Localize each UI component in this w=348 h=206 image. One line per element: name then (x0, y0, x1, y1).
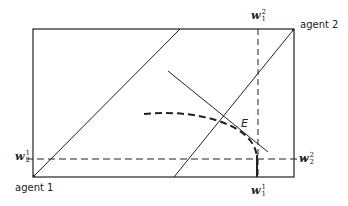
edgeworth-box (33, 29, 294, 177)
edgeworth-box-diagram (0, 0, 348, 206)
label-agent-2: agent 2 (300, 20, 338, 30)
label-w2-left: w12 (15, 150, 30, 164)
agent-1-origin-dot (33, 175, 35, 177)
label-w1-top: w21 (251, 9, 266, 23)
budget-line-1 (33, 29, 180, 177)
label-equilibrium-E: E (241, 118, 248, 129)
label-w1-bottom: w11 (251, 184, 266, 198)
label-w2-right: w22 (299, 152, 314, 166)
label-agent-1: agent 1 (15, 183, 53, 193)
tangent-price-line (168, 71, 268, 152)
agent-2-origin-dot (292, 29, 294, 31)
budget-line-2 (174, 29, 294, 177)
